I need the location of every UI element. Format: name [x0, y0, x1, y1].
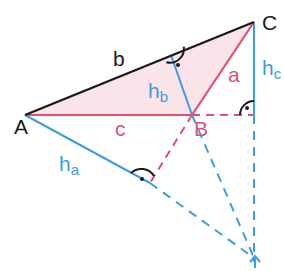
right-angle-marker-hc	[240, 101, 254, 115]
altitude-label-a-main: h	[59, 152, 71, 175]
altitude-label-c: hc	[262, 56, 282, 82]
altitude-label-b-sub: b	[160, 88, 168, 105]
side-label-a: a	[228, 63, 240, 86]
altitude-label-c-main: h	[262, 56, 274, 79]
altitude-label-a-sub: a	[71, 161, 80, 178]
vertex-label-a: A	[14, 115, 28, 138]
altitude-label-c-sub: c	[274, 65, 282, 82]
altitude-label-a: ha	[59, 152, 80, 178]
side-a-extension	[150, 115, 192, 183]
side-label-b: b	[113, 47, 125, 70]
altitude-label-b-main: h	[148, 79, 160, 102]
vertex-label-b: B	[194, 117, 208, 140]
orthocenter-mark	[250, 256, 260, 268]
vertex-label-c: C	[262, 11, 277, 34]
side-label-c: c	[115, 117, 126, 140]
